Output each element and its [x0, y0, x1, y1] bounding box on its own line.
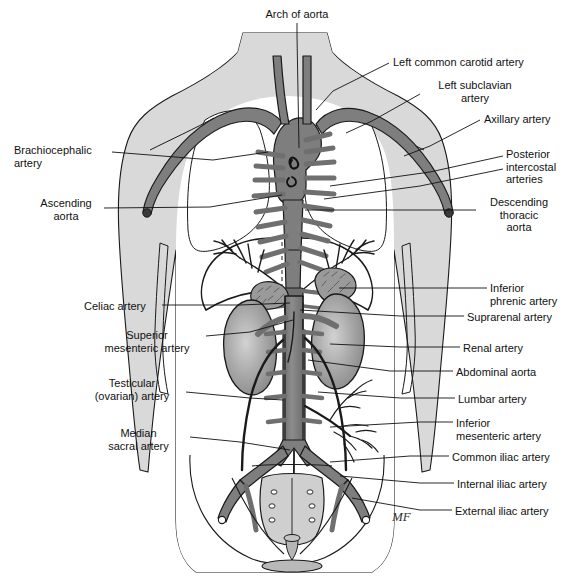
- label-left-subclavian: Left subclavian artery: [425, 79, 525, 104]
- label-inferior-mesenteric: Inferior mesenteric artery: [456, 417, 556, 442]
- label-descending-thoracic-aorta: Descending thoracic aorta: [479, 196, 559, 234]
- label-inferior-phrenic-artery: Inferior phrenic artery: [490, 282, 574, 307]
- signature-text: MF: [391, 509, 412, 524]
- label-median-sacral-artery: Median sacral artery: [91, 427, 186, 452]
- label-posterior-intercostal: Posterior intercostal arteries: [506, 148, 574, 186]
- label-brachiocephalic-artery: Brachiocephalic artery: [14, 144, 109, 169]
- label-internal-iliac-artery: Internal iliac artery: [457, 478, 562, 491]
- label-superior-mesenteric: Superior mesenteric artery: [92, 329, 202, 354]
- artist-signature: MF: [391, 509, 412, 524]
- label-arch-of-aorta: Arch of aorta: [252, 8, 342, 21]
- label-suprarenal-artery: Suprarenal artery: [467, 311, 572, 324]
- label-renal-artery: Renal artery: [463, 342, 543, 355]
- label-ascending-aorta: Ascending aorta: [31, 197, 101, 222]
- label-axillary-artery: Axillary artery: [484, 113, 574, 126]
- label-external-iliac-artery: External iliac artery: [455, 505, 565, 518]
- label-left-common-carotid: Left common carotid artery: [393, 56, 563, 69]
- label-lumbar-artery: Lumbar artery: [458, 393, 546, 406]
- label-testicular-ovarian: Testicular (ovarian) artery: [82, 377, 182, 402]
- label-common-iliac-artery: Common iliac artery: [452, 451, 567, 464]
- label-abdominal-aorta: Abdominal aorta: [456, 366, 556, 379]
- label-celiac-artery: Celiac artery: [84, 300, 159, 313]
